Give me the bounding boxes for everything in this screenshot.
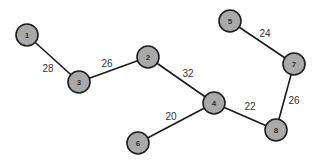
edge-2-4 bbox=[148, 57, 214, 103]
node-label: 8 bbox=[274, 126, 279, 135]
node-label: 7 bbox=[292, 60, 297, 69]
edge-4-6 bbox=[138, 103, 214, 143]
node-5: 5 bbox=[219, 10, 241, 32]
edge-weight-4-8: 22 bbox=[244, 101, 256, 112]
edge-weight-3-2: 26 bbox=[101, 58, 113, 69]
edge-weight-7-8: 26 bbox=[288, 95, 300, 106]
node-6: 6 bbox=[127, 132, 149, 154]
node-label: 2 bbox=[146, 53, 151, 62]
node-label: 3 bbox=[77, 78, 82, 87]
node-7: 7 bbox=[283, 53, 305, 75]
node-label: 6 bbox=[136, 139, 141, 148]
node-label: 5 bbox=[228, 17, 233, 26]
edges-layer bbox=[27, 21, 294, 143]
edge-weight-5-7: 24 bbox=[259, 28, 271, 39]
graph-diagram: 28263220222426 12345678 bbox=[0, 0, 319, 163]
node-1: 1 bbox=[16, 24, 38, 46]
node-label: 1 bbox=[25, 31, 30, 40]
edge-weight-2-4: 32 bbox=[182, 68, 194, 79]
edge-weight-1-3: 28 bbox=[42, 63, 54, 74]
node-4: 4 bbox=[203, 92, 225, 114]
node-3: 3 bbox=[68, 71, 90, 93]
node-label: 4 bbox=[212, 99, 217, 108]
node-8: 8 bbox=[265, 119, 287, 141]
node-2: 2 bbox=[137, 46, 159, 68]
edge-weight-4-6: 20 bbox=[165, 111, 177, 122]
